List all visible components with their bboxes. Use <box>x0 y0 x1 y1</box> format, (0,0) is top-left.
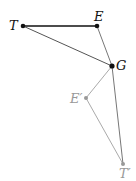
triangle-reflection-diagram: T E G E′ T′ <box>0 0 136 181</box>
label-E: E <box>94 10 104 23</box>
segment-G-E-prime <box>86 66 112 98</box>
point-T <box>21 24 26 29</box>
segment-E-prime-T-prime <box>86 98 123 164</box>
diagram-canvas <box>0 0 136 181</box>
point-E-prime <box>84 96 88 100</box>
label-G: G <box>116 59 126 72</box>
segment-T-G <box>23 26 112 66</box>
point-E <box>95 24 100 29</box>
point-G <box>109 63 114 68</box>
label-E-prime: E′ <box>70 92 82 105</box>
segment-G-T-prime <box>112 66 123 164</box>
label-T: T <box>9 19 18 32</box>
label-T-prime: T′ <box>119 167 131 180</box>
